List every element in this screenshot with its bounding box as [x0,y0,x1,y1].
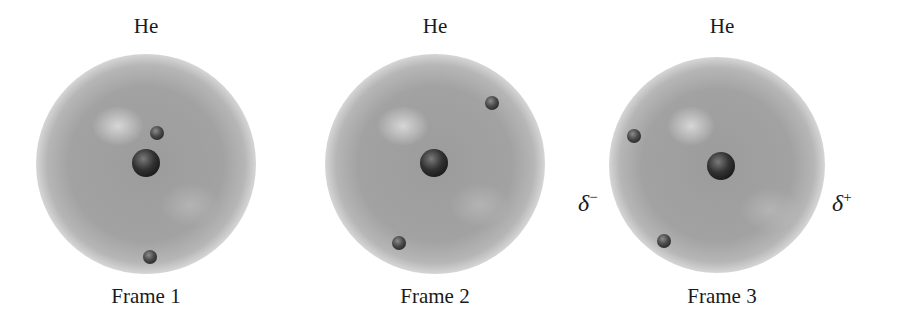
frame-2-caption: Frame 2 [400,284,469,309]
frame-2-atom [325,54,545,274]
nucleus [420,149,448,177]
electron [392,236,406,250]
electron [627,129,641,143]
frame-3-caption: Frame 3 [687,284,756,309]
partial-positive-charge: δ+ [832,190,852,217]
cloud-highlight [377,106,429,146]
cloud-highlight [667,106,715,146]
electron [657,234,671,248]
electron [143,250,157,264]
frame-3-atom [609,57,825,273]
frame-3-title: He [710,14,735,39]
frame-2-title: He [423,14,448,39]
nucleus [132,149,160,177]
electron [150,126,164,140]
helium-dispersion-diagram [0,0,900,332]
cloud-highlight [92,106,144,146]
frame-1-caption: Frame 1 [111,284,180,309]
nucleus [707,152,735,180]
electron [485,96,499,110]
partial-negative-charge: δ− [578,190,598,217]
frame-1-atom [36,54,256,274]
frame-1-title: He [134,14,159,39]
